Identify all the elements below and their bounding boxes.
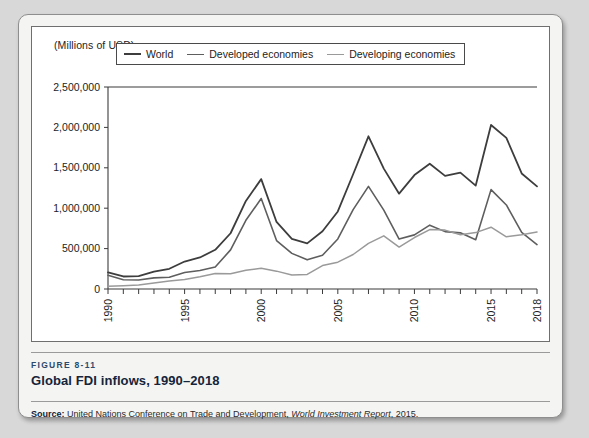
legend-swatch-world: [124, 53, 141, 55]
figure-number: FIGURE 8-11: [31, 360, 550, 370]
legend-label-developed: Developed economies: [209, 48, 313, 60]
line-chart-svg: 0500,0001,000,0001,500,0002,000,0002,500…: [32, 27, 551, 343]
y-tick-label: 2,000,000: [53, 121, 100, 133]
x-tick-label: 2000: [255, 299, 267, 323]
series-line-developing-economies: [108, 227, 537, 286]
caption-block: FIGURE 8-11 Global FDI inflows, 1990–201…: [31, 352, 550, 421]
series-lines: [108, 125, 537, 286]
x-axis: 1990199520002005201020152018: [102, 289, 543, 322]
legend-item-developing: Developing economies: [327, 48, 455, 60]
chart-legend: World Developed economies Developing eco…: [116, 43, 465, 65]
y-axis: 0500,0001,000,0001,500,0002,000,0002,500…: [53, 81, 537, 295]
caption-divider: [31, 352, 550, 353]
source-publication: World Investment Report: [291, 409, 391, 419]
x-tick-label: 1995: [179, 299, 191, 323]
source-text-a: United Nations Conference on Trade and D…: [65, 409, 292, 419]
chart-panel: (Millions of USD) 0500,0001,000,0001,500…: [31, 26, 550, 342]
x-tick-label: 2005: [332, 299, 344, 323]
x-tick-label: 2015: [485, 299, 497, 323]
legend-item-world: World: [124, 48, 173, 60]
source-label: Source:: [31, 409, 65, 419]
legend-label-world: World: [146, 48, 173, 60]
legend-label-developing: Developing economies: [349, 48, 455, 60]
plot-area: 0500,0001,000,0001,500,0002,000,0002,500…: [32, 27, 549, 341]
y-tick-label: 0: [94, 283, 100, 295]
legend-item-developed: Developed economies: [187, 48, 313, 60]
x-tick-label: 2010: [408, 299, 420, 323]
source-text-b: , 2015.: [391, 409, 419, 419]
figure-card: (Millions of USD) 0500,0001,000,0001,500…: [18, 14, 563, 418]
source-divider: [31, 401, 550, 402]
legend-swatch-developed: [187, 54, 204, 55]
y-tick-label: 1,000,000: [53, 202, 100, 214]
y-tick-label: 1,500,000: [53, 161, 100, 173]
y-tick-label: 2,500,000: [53, 81, 100, 93]
y-tick-label: 500,000: [62, 242, 100, 254]
source-line: Source: United Nations Conference on Tra…: [31, 409, 550, 421]
legend-swatch-developing: [327, 54, 344, 55]
figure-title: Global FDI inflows, 1990–2018: [31, 373, 550, 388]
series-line-world: [108, 125, 537, 277]
x-tick-label: 1990: [102, 299, 114, 323]
x-tick-label: 2018: [531, 299, 543, 323]
